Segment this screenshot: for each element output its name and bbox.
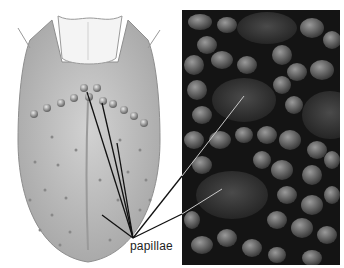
tongue-illustration [0, 0, 180, 268]
tongue-drawing [0, 0, 180, 268]
papillae-label: papillae [130, 239, 173, 253]
electron-micrograph [182, 10, 340, 265]
micrograph-texture [182, 10, 340, 265]
